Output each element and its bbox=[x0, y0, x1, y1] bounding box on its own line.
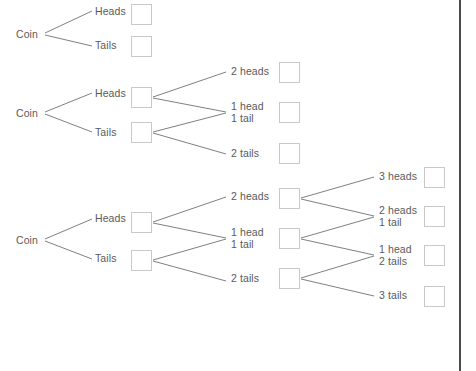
d3-outcome-3tails-label: 3 tails bbox=[379, 289, 407, 301]
d2-outcome-1head1tail-answer-box[interactable] bbox=[279, 102, 300, 123]
d2-heads-answer-box[interactable] bbox=[131, 87, 152, 108]
d2-outcome-2heads-label: 2 heads bbox=[231, 65, 269, 77]
d3-heads-answer-box[interactable] bbox=[131, 212, 152, 233]
page-right-edge bbox=[459, 0, 461, 371]
d3-mid-2heads-answer-box[interactable] bbox=[279, 188, 300, 209]
d3-mid-2heads-label: 2 heads bbox=[231, 190, 269, 202]
d3-outcome-3heads-answer-box[interactable] bbox=[424, 167, 445, 188]
d3-outcome-3heads-label: 3 heads bbox=[379, 170, 417, 182]
d3-outcome-1head2tails-label: 1 head 2 tails bbox=[379, 243, 412, 267]
d3-mid-2tails-label: 2 tails bbox=[231, 272, 259, 284]
d3-outcome-2heads1tail-answer-box[interactable] bbox=[424, 206, 445, 227]
d3-tails-answer-box[interactable] bbox=[131, 250, 152, 271]
d1-heads-label: Heads bbox=[95, 5, 126, 17]
d2-outcome-2heads-answer-box[interactable] bbox=[279, 62, 300, 83]
d3-mid-1head1tail-label: 1 head 1 tail bbox=[231, 226, 264, 250]
d3-tails-label: Tails bbox=[95, 252, 117, 264]
d1-heads-answer-box[interactable] bbox=[131, 4, 152, 25]
d3-root-label: Coin bbox=[16, 234, 38, 246]
d3-mid-1head1tail-answer-box[interactable] bbox=[279, 228, 300, 249]
diagram-canvas: Coin Heads Tails Coin Heads Tails 2 head… bbox=[0, 0, 476, 371]
d1-tails-answer-box[interactable] bbox=[131, 36, 152, 57]
d2-tails-answer-box[interactable] bbox=[131, 122, 152, 143]
d1-root-label: Coin bbox=[16, 28, 38, 40]
d2-heads-label: Heads bbox=[95, 87, 126, 99]
d2-tails-label: Tails bbox=[95, 126, 117, 138]
d3-heads-label: Heads bbox=[95, 212, 126, 224]
d3-outcome-2heads1tail-label: 2 heads 1 tail bbox=[379, 204, 417, 228]
d3-outcome-3tails-answer-box[interactable] bbox=[424, 286, 445, 307]
d3-outcome-1head2tails-answer-box[interactable] bbox=[424, 245, 445, 266]
d2-outcome-2tails-answer-box[interactable] bbox=[279, 143, 300, 164]
d2-outcome-2tails-label: 2 tails bbox=[231, 147, 259, 159]
d3-mid-2tails-answer-box[interactable] bbox=[279, 268, 300, 289]
d2-outcome-1head1tail-label: 1 head 1 tail bbox=[231, 100, 264, 124]
tree-branch-lines bbox=[0, 0, 476, 371]
d2-root-label: Coin bbox=[16, 107, 38, 119]
d1-tails-label: Tails bbox=[95, 39, 117, 51]
